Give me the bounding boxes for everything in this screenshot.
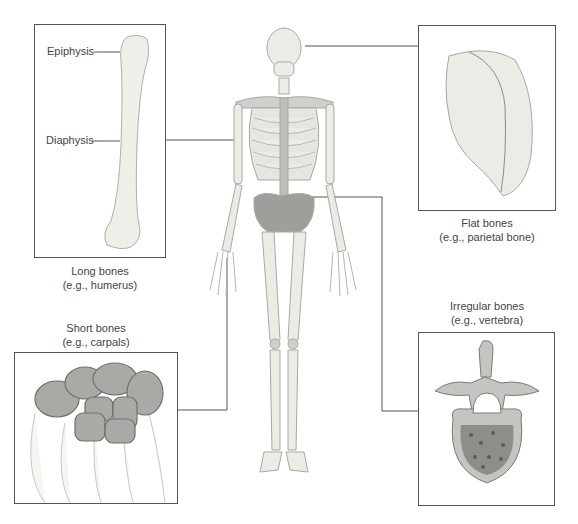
short-bones-panel	[14, 352, 178, 504]
flat-bones-title: Flat bones	[418, 216, 556, 230]
short-bones-caption: Short bones (e.g., carpals)	[14, 321, 178, 349]
irregular-bones-example: (e.g., vertebra)	[418, 313, 556, 327]
long-bones-caption: Long bones (e.g., humerus)	[34, 264, 166, 292]
vertebra-illustration	[419, 333, 554, 505]
diaphysis-label: Diaphysis	[46, 134, 94, 146]
irregular-bones-panel	[418, 332, 555, 506]
short-bones-example: (e.g., carpals)	[14, 335, 178, 349]
flat-bones-example: (e.g., parietal bone)	[418, 230, 556, 244]
epiphysis-label: Epiphysis	[47, 45, 94, 57]
parietal-bone-illustration	[419, 26, 555, 210]
carpals-illustration	[15, 353, 177, 503]
short-bones-title: Short bones	[14, 321, 178, 335]
long-bones-example: (e.g., humerus)	[34, 278, 166, 292]
irregular-bones-caption: Irregular bones (e.g., vertebra)	[418, 299, 556, 327]
flat-bones-panel	[418, 25, 556, 211]
irregular-bones-title: Irregular bones	[418, 299, 556, 313]
flat-bones-caption: Flat bones (e.g., parietal bone)	[418, 216, 556, 244]
long-bones-title: Long bones	[34, 264, 166, 278]
